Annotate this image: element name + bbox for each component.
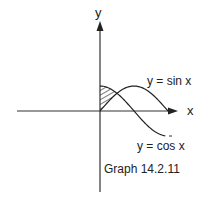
cos-curve-label: y = cos x (137, 140, 185, 152)
x-axis-arrow-icon (168, 108, 178, 115)
sin-curve-label: y = sin x (147, 75, 191, 87)
graph-caption: Graph 14.2.11 (104, 163, 180, 175)
y-axis-label: y (95, 6, 102, 19)
y-axis-arrow-icon (97, 21, 104, 31)
x-axis-label: x (187, 104, 194, 117)
